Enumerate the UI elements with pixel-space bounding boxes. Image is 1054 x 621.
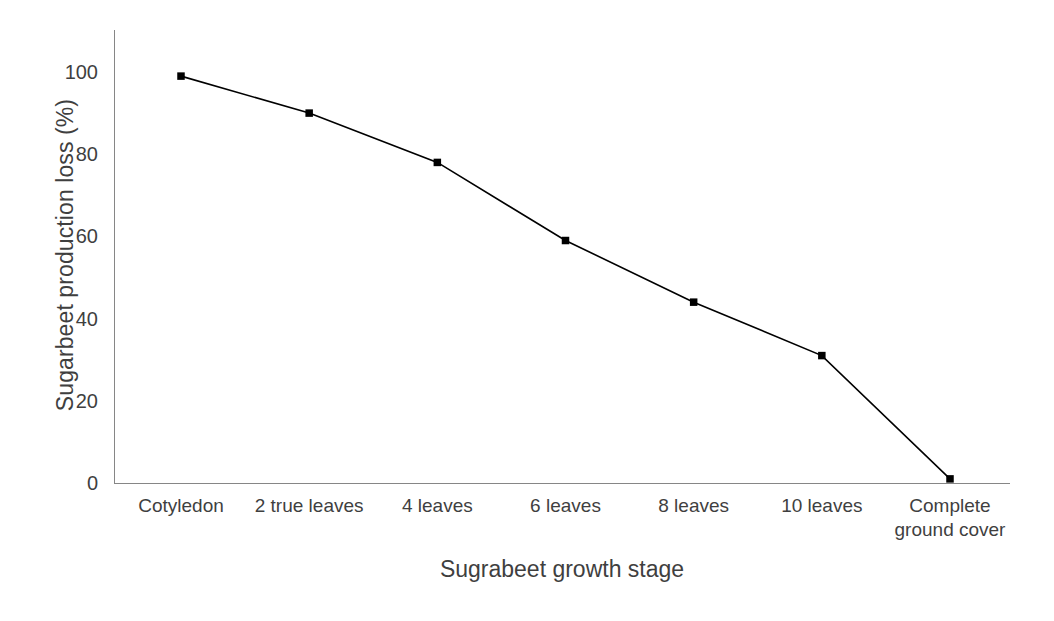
y-tick-label: 40: [40, 307, 110, 330]
chart-figure: Sugarbeet production loss (%) 0204060801…: [0, 0, 1054, 621]
x-axis-tick-labels: Cotyledon2 true leaves4 leaves6 leaves8 …: [114, 494, 1010, 554]
data-point-marker: [177, 72, 185, 80]
data-point-marker: [562, 237, 570, 245]
line-series: [114, 30, 1010, 483]
plot-area: [114, 30, 1010, 483]
data-point-marker: [434, 159, 442, 167]
data-point-marker: [690, 298, 698, 306]
x-axis-title: Sugrabeet growth stage: [114, 556, 1010, 583]
y-tick-label: 100: [40, 61, 110, 84]
data-point-marker: [305, 109, 313, 117]
y-tick-label: 60: [40, 225, 110, 248]
y-tick-label: 20: [40, 389, 110, 412]
series-line: [181, 76, 950, 479]
y-tick-label: 80: [40, 143, 110, 166]
x-axis-line: [114, 483, 1010, 484]
data-point-marker: [818, 352, 826, 360]
y-axis-tick-labels: 020406080100: [40, 0, 110, 621]
y-tick-label: 0: [40, 472, 110, 495]
x-tick-label: Complete ground cover: [870, 494, 1030, 542]
cut-off-caption-strip: [0, 612, 1054, 621]
data-point-marker: [946, 475, 954, 483]
